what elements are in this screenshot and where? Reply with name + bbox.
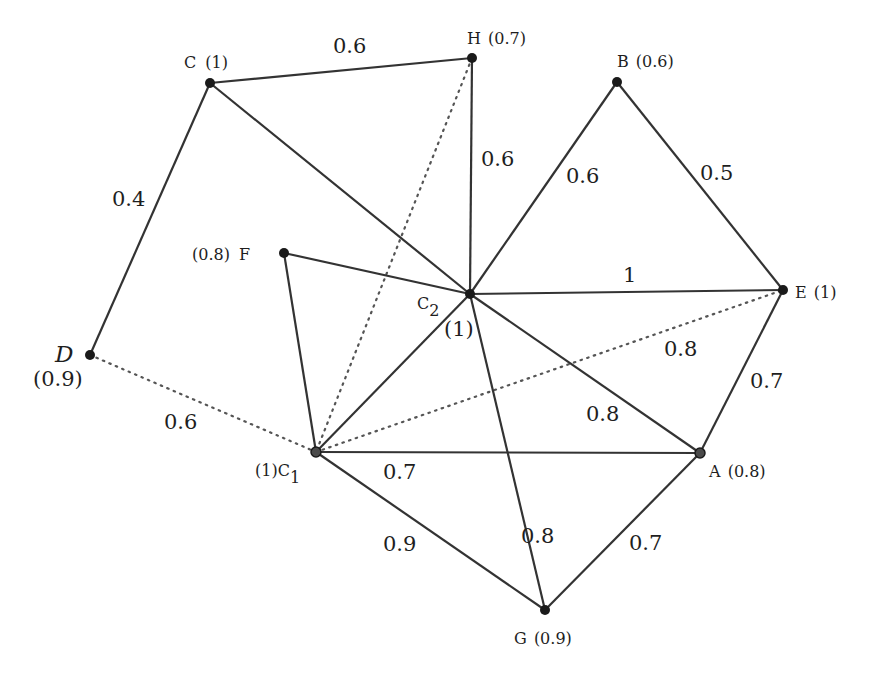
node-E — [778, 285, 788, 295]
edge-C-D — [90, 83, 210, 355]
edge-label-C-D: 0.4 — [112, 187, 145, 211]
node-label-D-value: (0.9) — [33, 367, 83, 391]
node-C2 — [465, 289, 475, 299]
node-label-A: A (0.8) — [708, 462, 766, 481]
node-label-F: (0.8) F — [192, 245, 250, 264]
edge-label-C2-E: 1 — [623, 263, 636, 287]
node-labels: C (1) H (0.7) B (0.6) E (1) (0.8) F C2 (… — [33, 29, 836, 648]
node-label-C2-value: (1) — [444, 317, 474, 341]
node-A — [695, 448, 705, 458]
node-C1 — [311, 447, 321, 457]
edge-C1-G — [316, 452, 545, 610]
edge-labels: 0.6 0.4 0.6 0.6 0.5 1 0.8 0.6 0.8 0.7 0.… — [112, 34, 783, 556]
edge-C-H — [210, 58, 472, 83]
node-G — [540, 605, 550, 615]
node-label-C: C (1) — [184, 53, 228, 72]
edge-label-B-E: 0.5 — [700, 161, 733, 185]
edge-A-G — [545, 453, 700, 610]
edge-label-E-A: 0.7 — [750, 369, 783, 393]
weighted-graph-diagram: 0.6 0.4 0.6 0.6 0.5 1 0.8 0.6 0.8 0.7 0.… — [0, 0, 877, 682]
node-C — [205, 78, 215, 88]
nodes — [85, 53, 788, 615]
node-label-B: B (0.6) — [617, 52, 674, 71]
edge-C2-E — [470, 290, 783, 294]
edge-label-C2-A: 0.8 — [586, 402, 619, 426]
node-label-C1: (1)C1 — [255, 461, 300, 487]
edge-label-B-C2: 0.6 — [566, 164, 599, 188]
edge-label-C-H: 0.6 — [333, 34, 366, 58]
node-label-H: H (0.7) — [467, 29, 526, 48]
edge-label-D-C1: 0.6 — [164, 410, 197, 434]
node-B — [612, 77, 622, 87]
edge-H-C2 — [470, 58, 472, 294]
edge-F-C1 — [284, 253, 316, 452]
edge-label-C1-E: 0.8 — [664, 337, 697, 361]
edge-C2-A — [470, 294, 700, 453]
edge-label-C2-G: 0.8 — [521, 524, 554, 548]
edge-label-C1-A: 0.7 — [383, 460, 416, 484]
node-label-D-name: D — [54, 341, 73, 367]
edge-D-C1 — [90, 355, 316, 452]
node-label-G: G (0.9) — [514, 629, 572, 648]
edges — [90, 58, 783, 610]
edge-label-H-C2: 0.6 — [481, 147, 514, 171]
edge-label-A-G: 0.7 — [629, 531, 662, 555]
node-label-C2-name: C2 — [417, 294, 439, 320]
edge-B-E — [617, 82, 783, 290]
edge-H-C1 — [316, 58, 472, 452]
node-F — [279, 248, 289, 258]
edge-label-C1-G: 0.9 — [383, 532, 416, 556]
edge-B-C2 — [470, 82, 617, 294]
node-D — [85, 350, 95, 360]
edge-F-C2 — [284, 253, 470, 294]
node-H — [467, 53, 477, 63]
node-label-E: E (1) — [795, 283, 836, 302]
